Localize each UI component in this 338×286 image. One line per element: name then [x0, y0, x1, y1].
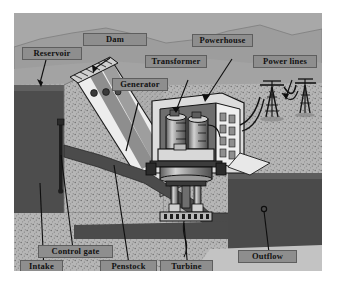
label-power-lines[interactable]: Power lines [253, 55, 317, 68]
label-transformer[interactable]: Transformer [145, 55, 207, 68]
label-control-gate[interactable]: Control gate [38, 245, 113, 258]
label-dam[interactable]: Dam [83, 33, 147, 46]
label-penstock[interactable]: Penstock [100, 260, 157, 271]
outflow-water [228, 173, 322, 249]
diagram-canvas: Reservoir Dam Generator Transformer Powe… [14, 13, 322, 271]
reservoir-surface [14, 85, 66, 91]
figure-root: Reservoir Dam Generator Transformer Powe… [0, 0, 338, 286]
label-generator[interactable]: Generator [112, 78, 168, 91]
label-reservoir[interactable]: Reservoir [22, 47, 82, 60]
label-outflow[interactable]: Outflow [238, 250, 297, 263]
label-intake[interactable]: Intake [20, 260, 63, 271]
label-turbine[interactable]: Turbine [160, 260, 213, 271]
outflow-surface [228, 173, 322, 179]
label-powerhouse[interactable]: Powerhouse [192, 34, 253, 47]
